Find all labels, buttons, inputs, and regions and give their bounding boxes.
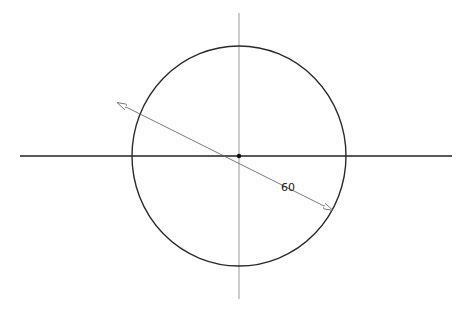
center-point[interactable] bbox=[237, 154, 241, 158]
drawing-canvas: 60 bbox=[0, 0, 466, 316]
dimension-label[interactable]: 60 bbox=[281, 181, 295, 194]
